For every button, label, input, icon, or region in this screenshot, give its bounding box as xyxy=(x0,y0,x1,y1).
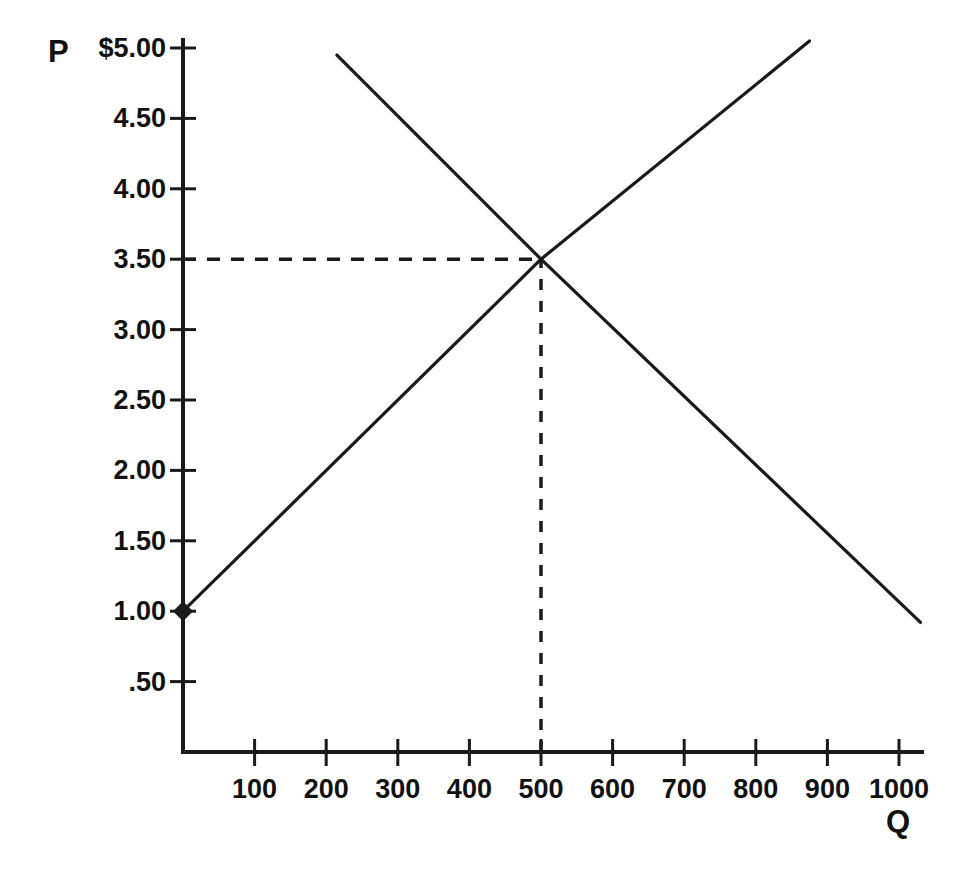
y-tick-label: $5.00 xyxy=(98,35,166,62)
x-tick-label: 500 xyxy=(518,776,563,803)
y-tick-label: 2.00 xyxy=(113,457,166,484)
y-tick-label: 1.50 xyxy=(113,527,166,554)
y-tick-label: 3.00 xyxy=(113,316,166,343)
axes-group xyxy=(183,40,922,752)
x-tick-label: 100 xyxy=(232,776,277,803)
y-tick-label: 3.50 xyxy=(113,246,166,273)
y-tick-label: 2.50 xyxy=(113,387,166,414)
supply-demand-chart: .501.001.502.002.503.003.504.004.50$5.00… xyxy=(0,0,972,872)
x-tick-label: 300 xyxy=(375,776,420,803)
quantity-axis-label: Q xyxy=(886,806,910,837)
x-tick-label: 900 xyxy=(805,776,850,803)
x-tick-label: 1000 xyxy=(869,776,929,803)
curve-series xyxy=(183,41,920,623)
y-tick-label: 4.50 xyxy=(113,105,166,132)
x-tick-label: 700 xyxy=(662,776,707,803)
x-tick-label: 400 xyxy=(447,776,492,803)
x-tick-label: 200 xyxy=(304,776,349,803)
x-tick-label: 600 xyxy=(590,776,635,803)
y-tick-label: .50 xyxy=(128,668,166,695)
annotation-guides xyxy=(183,259,541,752)
y-tick-label: 1.00 xyxy=(113,598,166,625)
supply-curve xyxy=(183,41,810,611)
demand-curve xyxy=(337,55,921,622)
y-tick-label: 4.00 xyxy=(113,175,166,202)
x-tick-label: 800 xyxy=(733,776,778,803)
price-axis-label: P xyxy=(48,36,69,67)
